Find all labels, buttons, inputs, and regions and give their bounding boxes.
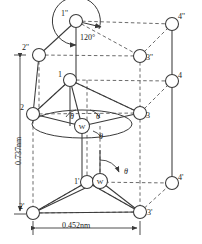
atom-circle [134,107,147,120]
theta-upper-left: θ [70,113,74,121]
angle-120-label: 120° [80,33,95,42]
atom-n1[interactable] [64,74,77,87]
atom-wUpper[interactable]: W [75,119,90,134]
atom-circle [27,108,40,121]
atom-label-n4pp: 4'' [178,13,185,21]
atom-label-n1: 1 [58,71,62,79]
atom-n2pp[interactable] [33,49,46,62]
atom-wLower[interactable]: W [93,174,108,189]
atom-circle [134,206,147,219]
atom-circle [64,74,77,87]
theta-upper-right: θ [96,113,100,121]
height-dimension-line [14,55,26,214]
atom-label-n1p: 1' [74,178,79,186]
atom-label-n4: 4 [178,72,182,80]
atom-label-n2p: 2' [19,203,24,211]
crystal-lattice-diagram: WW [0,0,202,244]
atom-circle [81,176,94,189]
atom-n3p[interactable] [134,206,147,219]
atom-n4pp[interactable] [166,18,179,31]
atom-circle [33,49,46,62]
atom-n2p[interactable] [27,207,40,220]
atom-circle [166,75,179,88]
atom-n3pp[interactable] [134,50,147,63]
atom-label-n4p: 4' [178,174,183,182]
atom-label-n3: 3 [146,112,150,120]
atom-n2[interactable] [27,108,40,121]
atom-circle [166,18,179,31]
theta-arc-lower [100,160,119,172]
atom-circle [134,50,147,63]
atom-symbol-w: W [97,178,104,186]
atom-n1p[interactable] [81,176,94,189]
atom-n1pp[interactable] [70,15,83,28]
atom-circle [166,177,179,190]
atom-symbol-w: W [79,123,86,131]
figure-canvas: WW 1''4''2''3''14231'4'2'3' 0.737nm 0.45… [0,0,202,244]
theta-upper-below: θ [99,133,103,141]
atom-n4[interactable] [166,75,179,88]
atom-circle [27,207,40,220]
atom-label-n1pp: 1'' [61,10,68,18]
atom-label-n3p: 3' [147,209,152,217]
height-dimension-label: 0.737nm [14,137,23,165]
theta-lower: θ [124,168,128,176]
width-dimension-label: 0.452nm [62,221,90,230]
atom-label-n3pp: 3'' [146,54,153,62]
atom-n4p[interactable] [166,177,179,190]
atom-circle [70,15,83,28]
atom-label-n2pp: 2'' [22,44,29,52]
atom-n3[interactable] [134,107,147,120]
atom-label-n2: 2 [20,104,24,112]
